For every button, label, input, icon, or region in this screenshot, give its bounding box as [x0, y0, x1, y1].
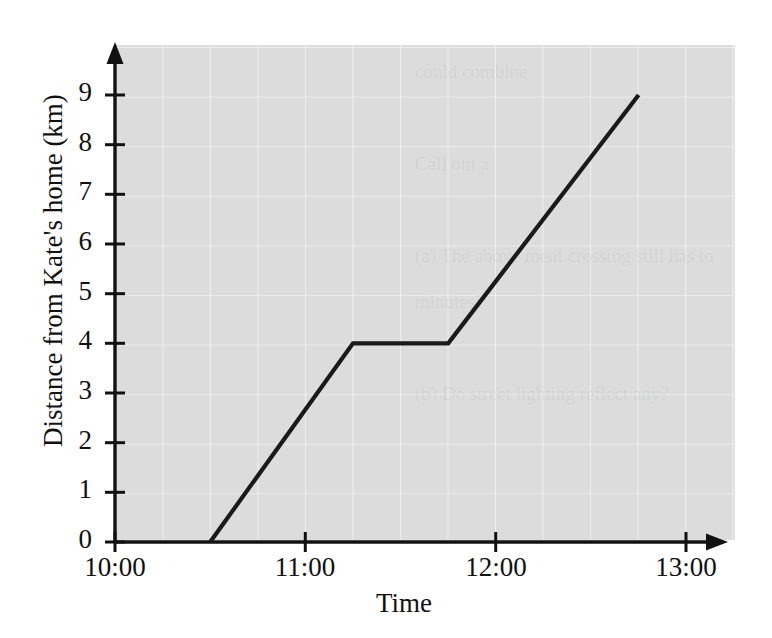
plot-canvas	[0, 0, 772, 638]
x-tick-label: 11:00	[245, 552, 365, 583]
y-tick-label: 0	[52, 524, 92, 555]
chart-figure: could combine Call out a (a) The above m…	[0, 0, 772, 638]
x-tick-label: 13:00	[626, 552, 746, 583]
x-axis	[115, 534, 728, 551]
data-line-kates-journey	[210, 95, 638, 542]
y-axis	[107, 42, 124, 542]
x-tick-label: 10:00	[55, 552, 175, 583]
y-axis-title: Distance from Kate's home (km)	[38, 36, 69, 506]
x-tick-label: 12:00	[436, 552, 556, 583]
x-axis-title: Time	[304, 588, 504, 619]
